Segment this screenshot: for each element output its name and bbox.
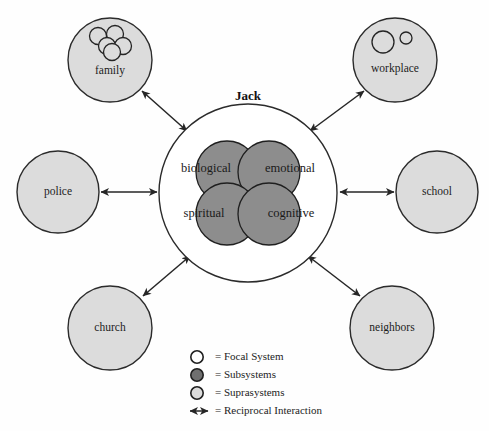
connection-focal-workplace xyxy=(310,91,364,131)
subsystem-label-biological: biological xyxy=(181,161,232,175)
suprasystem-school[interactable]: school xyxy=(396,151,478,233)
ecomap-canvas: family workplace police school church ne… xyxy=(0,0,489,431)
legend-item-reciprocal-interaction: = Reciprocal Interaction xyxy=(190,404,322,416)
light-filled-circle-icon xyxy=(191,387,203,399)
subsystem-cluster xyxy=(196,141,300,245)
ecomap-diagram: family workplace police school church ne… xyxy=(0,0,489,431)
legend-item-suprasystems: = Suprasystems xyxy=(191,386,285,400)
suprasystem-label: workplace xyxy=(371,62,419,75)
subsystem-label-spiritual: spiritual xyxy=(184,206,225,220)
suprasystem-label: neighbors xyxy=(369,321,415,334)
legend: = Focal System = Subsystems = Suprasyste… xyxy=(190,350,322,416)
connection-focal-neighbors xyxy=(308,256,360,296)
focal-system[interactable]: Jack biological emotional spiritual cogn… xyxy=(159,88,337,282)
subsystem-label-emotional: emotional xyxy=(265,161,316,175)
connection-focal-family xyxy=(142,91,187,131)
open-circle-icon xyxy=(191,351,203,363)
legend-label: = Reciprocal Interaction xyxy=(215,404,322,416)
suprasystem-church[interactable]: church xyxy=(68,286,152,370)
suprasystem-circle xyxy=(353,18,437,102)
suprasystem-workplace[interactable]: workplace xyxy=(353,18,437,102)
legend-label: = Suprasystems xyxy=(215,386,284,398)
suprasystem-label: church xyxy=(94,321,126,333)
focal-system-title: Jack xyxy=(235,88,262,103)
suprasystem-family[interactable]: family xyxy=(68,18,152,102)
suprasystem-police[interactable]: police xyxy=(17,151,99,233)
suprasystem-label: school xyxy=(422,185,452,197)
legend-label: = Focal System xyxy=(215,350,284,362)
dark-filled-circle-icon xyxy=(191,369,203,381)
suprasystem-label: police xyxy=(44,185,72,198)
legend-label: = Subsystems xyxy=(215,368,276,380)
suprasystem-label: family xyxy=(95,64,125,77)
subsystem-label-cognitive: cognitive xyxy=(268,206,315,220)
legend-item-focal-system: = Focal System xyxy=(191,350,284,364)
connection-focal-church xyxy=(143,256,190,296)
legend-item-subsystems: = Subsystems xyxy=(191,368,276,382)
suprasystem-neighbors[interactable]: neighbors xyxy=(350,286,434,370)
